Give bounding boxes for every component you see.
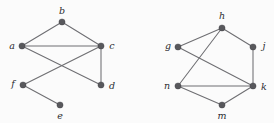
graph-edge-m-k	[222, 86, 253, 105]
graph-node-label-b: b	[59, 5, 65, 16]
graph-node-k	[250, 83, 256, 89]
graph-node-label-n: n	[164, 80, 170, 91]
graph-figure: abcdefghjkmn	[0, 0, 274, 123]
graph-edge-a-b	[22, 22, 62, 46]
graph-node-e	[57, 102, 63, 108]
edges-layer	[22, 22, 253, 105]
graph-node-a	[19, 43, 25, 49]
graph-node-b	[59, 19, 65, 25]
labels-layer: abcdefghjkmn	[9, 5, 267, 121]
graph-canvas: abcdefghjkmn	[0, 0, 274, 123]
graph-node-label-h: h	[219, 10, 225, 21]
graph-edge-b-c	[62, 22, 101, 46]
nodes-layer	[19, 19, 256, 108]
graph-node-d	[98, 82, 104, 88]
graph-node-label-d: d	[109, 80, 115, 91]
graph-node-f	[20, 82, 26, 88]
graph-edge-f-e	[23, 85, 60, 105]
graph-node-h	[219, 25, 225, 31]
graph-node-j	[250, 44, 256, 50]
graph-node-label-g: g	[165, 40, 171, 51]
graph-node-label-e: e	[57, 110, 63, 121]
graph-node-label-f: f	[10, 78, 16, 89]
graph-edge-h-n	[178, 28, 222, 86]
graph-edge-g-k	[178, 47, 253, 86]
graph-edge-n-m	[178, 86, 222, 105]
graph-node-m	[219, 102, 225, 108]
graph-node-label-m: m	[217, 110, 226, 121]
graph-node-label-j: j	[261, 40, 266, 51]
graph-node-c	[98, 43, 104, 49]
graph-node-label-a: a	[9, 40, 15, 51]
graph-node-g	[175, 44, 181, 50]
graph-node-label-c: c	[109, 40, 115, 51]
graph-node-n	[175, 83, 181, 89]
graph-node-label-k: k	[261, 81, 267, 92]
graph-edge-h-j	[222, 28, 253, 47]
